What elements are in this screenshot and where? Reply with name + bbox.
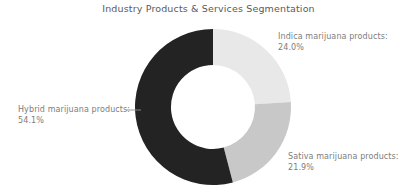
slice-label-sativa-name: Sativa marijuana products: — [288, 152, 399, 161]
slice-label-sativa: Sativa marijuana products: 21.9% — [288, 152, 399, 173]
slice-label-hybrid-value: 54.1% — [18, 116, 130, 127]
pie-slice-sativa[interactable] — [224, 102, 291, 182]
slice-label-sativa-value: 21.9% — [288, 163, 399, 174]
slice-label-indica-value: 24.0% — [278, 43, 388, 54]
slice-label-hybrid: Hybrid marijuana products: 54.1% — [18, 105, 130, 126]
slice-label-indica: Indica marijuana products: 24.0% — [278, 32, 388, 53]
donut-chart: Industry Products & Services Segmentatio… — [0, 0, 417, 193]
slice-label-hybrid-name: Hybrid marijuana products: — [18, 105, 130, 114]
slice-label-indica-name: Indica marijuana products: — [278, 32, 388, 41]
donut-slices — [135, 29, 291, 185]
